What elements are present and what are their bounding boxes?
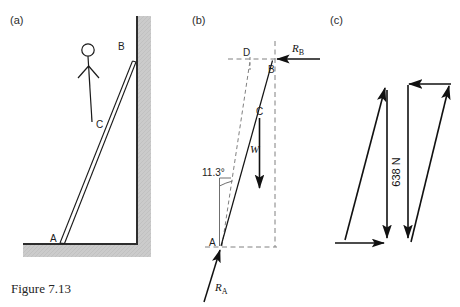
force-W-label: W	[250, 143, 260, 155]
figure-caption: Figure 7.13	[11, 281, 71, 297]
figure-canvas: B C A 11.3° RB	[0, 0, 460, 307]
panel-b-group: 11.3° RB W RA D B C A	[202, 41, 320, 302]
stick-figure	[78, 44, 99, 122]
panel-c-group: 638 N	[335, 84, 451, 243]
ladder-rail-left	[60, 61, 133, 243]
magnitude-label-638N: 638 N	[390, 157, 402, 186]
force-triangle-right-hypotenuse	[411, 86, 449, 242]
dash-line-A-to-D	[222, 61, 250, 246]
panel-b-label-B: B	[268, 64, 275, 75]
force-RA-label: RA	[214, 281, 228, 296]
panel-b-label-C: C	[256, 106, 263, 117]
panel-a-label-C: C	[96, 119, 103, 130]
angle-arc	[220, 181, 233, 186]
angle-label-11-3: 11.3°	[202, 167, 225, 178]
stick-figure-arm-left	[78, 66, 89, 78]
ladder-line-AB	[221, 61, 273, 247]
panel-b-label-D: D	[243, 47, 250, 58]
stick-figure-arm-right	[89, 66, 99, 78]
ladder-rail-right	[65, 62, 137, 244]
panel-a-group: B C A	[23, 16, 151, 257]
panel-b-label-A: A	[209, 237, 216, 248]
stick-figure-head	[82, 44, 94, 56]
panel-a-label-A: A	[50, 233, 57, 244]
ladder-top	[133, 61, 137, 62]
figure-page: (a) (b) (c)	[0, 0, 460, 307]
panel-a-label-B: B	[118, 41, 125, 52]
ladder-foot	[60, 243, 65, 244]
force-RA-arrow	[204, 250, 220, 302]
floor-shading	[23, 244, 151, 257]
force-RB-label: RB	[291, 42, 304, 57]
wall-shading	[137, 16, 151, 244]
force-triangle-left-hypotenuse	[345, 88, 385, 240]
